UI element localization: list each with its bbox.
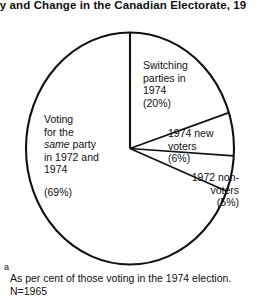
slice-label-switching-line2: parties in bbox=[143, 72, 188, 85]
slice-label-non-voters: 1972 non- voters (5%) bbox=[163, 171, 239, 209]
slice-label-same-line3-rest: party bbox=[70, 138, 96, 150]
slice-label-new-line2: voters bbox=[168, 140, 214, 153]
slice-label-same-line2: for the bbox=[44, 126, 99, 139]
slice-label-switching-percent: (20%) bbox=[143, 97, 188, 110]
slice-label-new-line1: 1974 new bbox=[168, 127, 214, 140]
footnote-text: As per cent of those voting in the 1974 … bbox=[4, 272, 268, 285]
slice-label-same-party: Voting for the same party in 1972 and 19… bbox=[44, 113, 99, 199]
slice-label-new-voters: 1974 new voters (6%) bbox=[168, 127, 214, 165]
slice-label-nonvoters-line2: voters bbox=[163, 184, 239, 197]
slice-label-same-percent: (69%) bbox=[44, 186, 99, 199]
slice-label-nonvoters-percent: (5%) bbox=[163, 196, 239, 209]
slice-label-switching-line1: Switching bbox=[143, 59, 188, 72]
slice-label-same-line1: Voting bbox=[44, 113, 99, 126]
slice-label-same-line5: 1974 bbox=[44, 163, 99, 176]
slice-label-nonvoters-line1: 1972 non- bbox=[163, 171, 239, 184]
slice-label-new-percent: (6%) bbox=[168, 152, 214, 165]
pie-chart-svg bbox=[0, 0, 268, 272]
slice-label-same-line4: in 1972 and bbox=[44, 151, 99, 164]
slice-label-same-line3: same party bbox=[44, 138, 99, 151]
footnote-sample-size: N=1965 bbox=[4, 285, 268, 296]
pie-chart: Switching parties in 1974 (20%) Voting f… bbox=[0, 0, 268, 272]
footnote: a As per cent of those voting in the 197… bbox=[4, 262, 268, 296]
slice-label-switching-line3: 1974 bbox=[143, 84, 188, 97]
footnote-marker: a bbox=[4, 262, 268, 272]
slice-label-same-emphasis: same bbox=[44, 138, 70, 150]
slice-label-switching: Switching parties in 1974 (20%) bbox=[143, 59, 188, 109]
